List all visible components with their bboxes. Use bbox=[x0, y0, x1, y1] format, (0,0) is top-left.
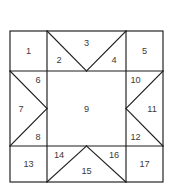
region-8-label: 8 bbox=[35, 132, 40, 142]
region-4-label: 4 bbox=[111, 55, 116, 65]
region-7-label: 7 bbox=[18, 104, 23, 114]
region-11-label: 11 bbox=[147, 104, 157, 114]
region-1-label: 1 bbox=[26, 46, 31, 56]
region-15-label: 15 bbox=[81, 166, 91, 176]
region-14-label: 14 bbox=[54, 150, 64, 160]
quilt-block-svg: 1 2 3 4 5 6 7 8 9 10 11 12 13 14 15 16 1… bbox=[0, 0, 173, 191]
region-10-label: 10 bbox=[130, 75, 140, 85]
region-2-label: 2 bbox=[56, 55, 61, 65]
region-17-label: 17 bbox=[139, 159, 149, 169]
region-13-label: 13 bbox=[23, 159, 33, 169]
region-16-label: 16 bbox=[109, 150, 119, 160]
region-6-label: 6 bbox=[35, 75, 40, 85]
region-5-label: 5 bbox=[142, 46, 147, 56]
region-3-label: 3 bbox=[84, 38, 89, 48]
region-9-label: 9 bbox=[84, 104, 89, 114]
region-12-label: 12 bbox=[130, 132, 140, 142]
quilt-block-diagram: 1 2 3 4 5 6 7 8 9 10 11 12 13 14 15 16 1… bbox=[0, 0, 173, 191]
